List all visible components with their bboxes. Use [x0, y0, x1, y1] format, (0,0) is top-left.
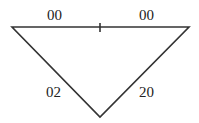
triangle-diagram: 00 00 02 20: [0, 0, 199, 123]
label-right-side: 20: [139, 84, 154, 100]
label-top-left-segment: 00: [47, 7, 62, 23]
label-left-side: 02: [46, 84, 61, 100]
triangle-outline: [12, 27, 189, 117]
label-top-right-segment: 00: [139, 7, 154, 23]
